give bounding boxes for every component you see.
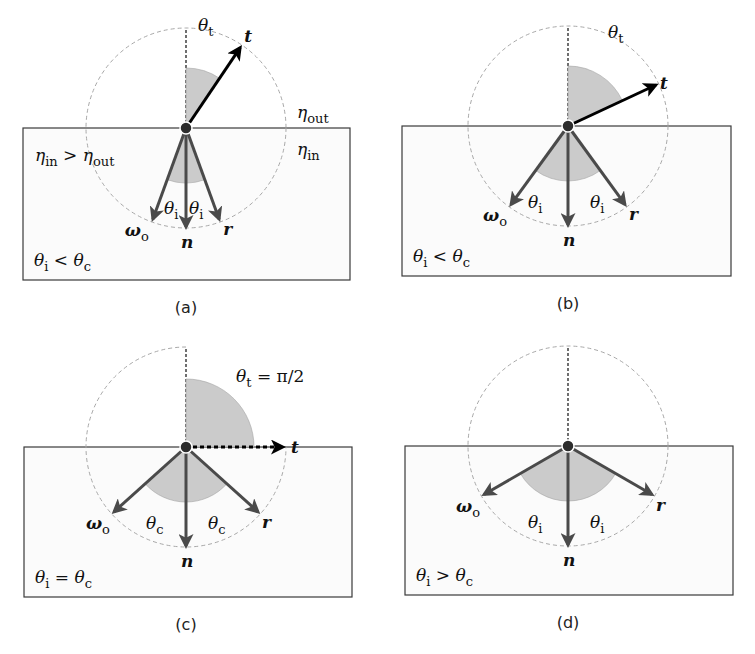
label-r: r [656,495,666,515]
label-r: r [262,512,272,532]
label-n: n [563,230,575,250]
panel-b: tθtωonrθiθiθi < θc(b) [402,22,731,313]
interface-point [562,440,574,452]
panel-caption: (d) [557,613,580,632]
label-t: t [244,26,252,46]
transmitted-angle-wedge [186,379,254,447]
label-n: n [181,551,193,571]
label-n: n [181,232,193,252]
label-t: t [291,437,299,457]
label-eta-out: ηout [297,102,329,126]
total-internal-reflection-figure: tθtωonrθiθiηoutηinηin > ηoutθi < θc(a)tθ… [0,0,755,654]
label-theta-t: θt [198,15,214,39]
panel-c: tθt = π/2ωonrθcθcθi = θc(c) [24,347,352,634]
interface-point [180,441,192,453]
panel-d: ωonrθiθiθi > θc(d) [405,346,733,632]
label-r: r [223,219,233,239]
panel-caption: (a) [175,298,197,317]
panel-a: tθtωonrθiθiηoutηinηin > ηoutθi < θc(a) [23,15,350,317]
interface-point [562,120,574,132]
label-r: r [629,204,639,224]
label-theta-t: θt [608,22,624,46]
label-n: n [563,550,575,570]
transmitted-angle-wedge [568,66,622,126]
panel-caption: (c) [175,615,196,634]
label-t: t [660,73,668,93]
panel-caption: (b) [557,294,580,313]
interface-point [180,122,192,134]
label-theta-t: θt = π/2 [236,366,304,390]
